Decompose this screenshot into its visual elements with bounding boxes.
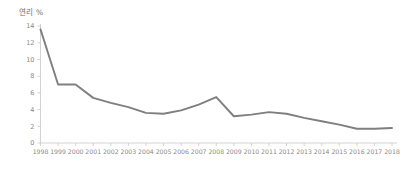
x-tick-label: 2013	[296, 148, 312, 155]
y-axis-tick-group: 02468101214	[26, 22, 40, 147]
y-tick-label: 6	[30, 89, 34, 97]
y-tick-label: 2	[30, 123, 34, 131]
x-tick-label: 2018	[384, 148, 400, 155]
y-tick-label: 0	[30, 139, 34, 147]
x-tick-label: 2003	[121, 148, 137, 155]
x-tick-label: 2000	[68, 148, 84, 155]
x-tick-label: 2005	[156, 148, 172, 155]
chart-plot-area: 02468101214 1998199920002001200220032004…	[0, 0, 403, 171]
y-tick-label: 12	[26, 39, 34, 47]
y-tick-label: 14	[26, 22, 34, 30]
x-tick-label: 2014	[314, 148, 330, 155]
x-axis-tick-group: 1998199920002001200220032004200520062007…	[33, 143, 400, 155]
x-tick-label: 2009	[226, 148, 242, 155]
y-tick-label: 10	[26, 56, 34, 64]
x-tick-label: 1999	[50, 148, 66, 155]
line-chart: 연리 % 02468101214 19981999200020012002200…	[0, 0, 403, 171]
x-tick-label: 2010	[244, 148, 260, 155]
x-tick-label: 1998	[33, 148, 49, 155]
x-tick-label: 2017	[367, 148, 383, 155]
x-tick-label: 2011	[261, 148, 277, 155]
x-tick-label: 2004	[138, 148, 154, 155]
x-tick-label: 2001	[85, 148, 101, 155]
data-series-line	[41, 29, 393, 128]
x-tick-label: 2008	[208, 148, 224, 155]
x-tick-label: 2015	[331, 148, 347, 155]
x-tick-label: 2002	[103, 148, 119, 155]
x-tick-label: 2006	[173, 148, 189, 155]
x-tick-label: 2007	[191, 148, 207, 155]
y-tick-label: 8	[30, 72, 34, 80]
x-tick-label: 2012	[279, 148, 295, 155]
y-tick-label: 4	[30, 106, 34, 114]
x-tick-label: 2016	[349, 148, 365, 155]
